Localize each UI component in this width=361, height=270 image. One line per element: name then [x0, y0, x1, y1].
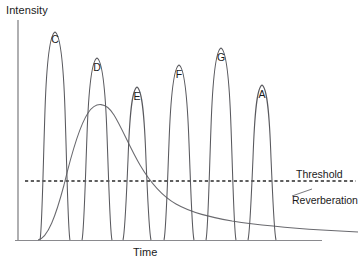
threshold-label: Threshold	[296, 168, 343, 180]
x-axis-label: Time	[133, 246, 157, 258]
peak-curve-C	[40, 32, 70, 240]
peak-curve-E	[123, 87, 151, 240]
peak-curve-D	[82, 58, 112, 240]
peak-label-D: D	[89, 61, 105, 73]
y-axis-label: Intensity	[6, 4, 48, 16]
peak-curve-F	[164, 65, 194, 240]
peak-curve-G	[206, 48, 236, 240]
peak-label-F: F	[171, 68, 187, 80]
reverberation-label: Reverberation	[292, 194, 358, 206]
peak-label-G: G	[213, 51, 229, 63]
peak-label-E: E	[129, 90, 145, 102]
peak-curve-A	[248, 85, 276, 240]
intensity-time-chart: Intensity Time Threshold Reverberation C…	[0, 0, 361, 270]
peak-label-C: C	[47, 33, 63, 45]
peak-label-A: A	[254, 88, 270, 100]
